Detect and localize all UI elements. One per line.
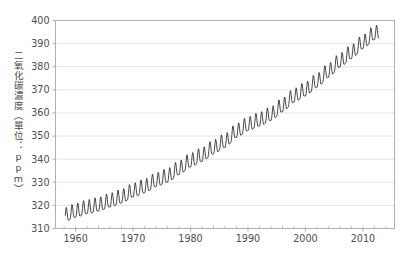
plot-frame xyxy=(56,21,395,229)
x-axis-tick-labels: 196019701980199020002010 xyxy=(63,233,375,244)
svg-text:350: 350 xyxy=(31,130,49,141)
svg-text:2010: 2010 xyxy=(351,233,375,244)
svg-text:330: 330 xyxy=(31,177,49,188)
svg-text:400: 400 xyxy=(31,15,49,26)
svg-text:2000: 2000 xyxy=(293,233,317,244)
svg-text:1970: 1970 xyxy=(121,233,145,244)
svg-text:390: 390 xyxy=(31,38,49,49)
grid-lines xyxy=(56,44,395,206)
svg-text:1960: 1960 xyxy=(63,233,87,244)
y-axis-tick-labels: 310320330340350360370380390400 xyxy=(31,15,49,234)
svg-text:310: 310 xyxy=(31,223,49,234)
svg-text:370: 370 xyxy=(31,84,49,95)
y-axis-title: 二氧化碳濃度（單位：ppm） xyxy=(2,22,24,222)
svg-text:380: 380 xyxy=(31,61,49,72)
svg-text:320: 320 xyxy=(31,200,49,211)
co2-series-line xyxy=(65,25,379,220)
chart-figure: 二氧化碳濃度（單位：ppm） 196019701980199020002010 … xyxy=(0,0,405,266)
keeling-curve-plot: 196019701980199020002010 310320330340350… xyxy=(0,0,405,266)
svg-text:360: 360 xyxy=(31,107,49,118)
svg-text:340: 340 xyxy=(31,154,49,165)
svg-text:1990: 1990 xyxy=(236,233,260,244)
svg-text:1980: 1980 xyxy=(178,233,202,244)
